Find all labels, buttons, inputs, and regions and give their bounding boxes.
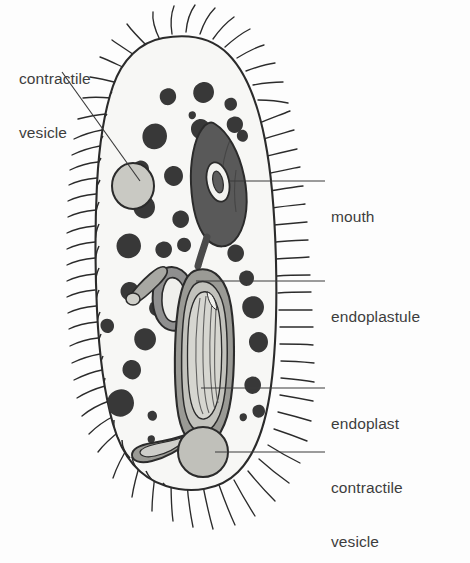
label-line-1: contractile <box>19 70 91 88</box>
paramecium-figure: contractile vesicle mouth endoplastule e… <box>0 0 470 563</box>
label-line-2: vesicle <box>19 124 91 142</box>
label-contractile-vesicle-top: contractile vesicle <box>19 33 91 179</box>
label-endoplastule: endoplastule <box>331 271 420 362</box>
label-contractile-vesicle-bottom: contractile vesicle <box>331 442 403 563</box>
contractile-vesicle-top <box>112 163 154 209</box>
label-line-2: vesicle <box>331 533 403 551</box>
label-line-1: mouth <box>331 208 375 226</box>
label-line-1: contractile <box>331 479 403 497</box>
label-line-1: endoplastule <box>331 308 420 326</box>
label-mouth: mouth <box>331 171 375 262</box>
label-line-1: endoplast <box>331 415 399 433</box>
